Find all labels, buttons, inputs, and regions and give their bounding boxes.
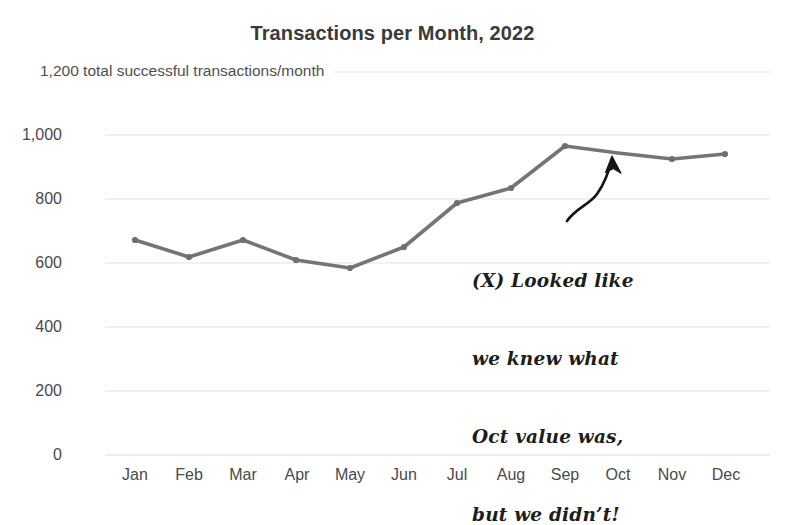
callout-line-3: Oct value was, <box>472 424 634 450</box>
data-point-nov <box>669 156 675 162</box>
chart-subtitle: 1,200 total successful transactions/mont… <box>40 62 334 80</box>
data-point-feb <box>186 254 192 260</box>
data-point-sep <box>562 143 568 149</box>
data-point-jun <box>401 244 407 250</box>
oct-missing-callout: (X) Looked like we knew what Oct value w… <box>472 216 634 525</box>
transactions-line <box>135 146 725 268</box>
data-point-markers <box>132 143 728 271</box>
data-point-aug <box>508 185 514 191</box>
data-point-jul <box>454 200 460 206</box>
callout-line-4: but we didn’t! <box>472 502 634 525</box>
callout-line-1: (X) Looked like <box>472 268 634 294</box>
data-point-may <box>347 265 353 271</box>
callout-arrow-icon <box>567 156 621 221</box>
data-point-jan <box>132 237 138 243</box>
gridlines <box>105 72 770 455</box>
data-point-mar <box>240 237 246 243</box>
data-point-dec <box>722 151 728 157</box>
callout-line-2: we knew what <box>472 346 634 372</box>
data-point-apr <box>293 257 299 263</box>
